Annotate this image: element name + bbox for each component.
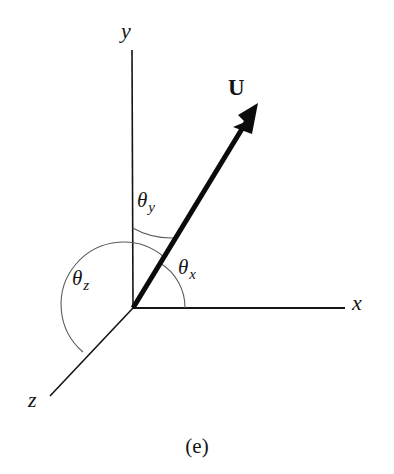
theta-x-symbol: θ bbox=[178, 255, 188, 279]
theta-y-arc bbox=[133, 228, 174, 238]
theta-z-subscript: z bbox=[83, 277, 89, 293]
vector-u-label: U bbox=[228, 76, 245, 99]
y-axis-label: y bbox=[121, 20, 131, 42]
theta-x-label: θx bbox=[178, 257, 195, 278]
theta-x-subscript: x bbox=[189, 266, 196, 282]
z-axis-label: z bbox=[28, 389, 37, 411]
theta-z-symbol: θ bbox=[72, 266, 82, 290]
theta-z-arc bbox=[61, 242, 164, 352]
vector-direction-angles-figure: y x z U θy θx θz (e) bbox=[0, 0, 394, 474]
y-axis-line bbox=[132, 50, 133, 308]
vector-u-arrowhead bbox=[233, 103, 258, 134]
figure-caption: (e) bbox=[0, 436, 394, 457]
theta-y-label: θy bbox=[137, 190, 154, 211]
x-axis-label: x bbox=[352, 292, 362, 314]
theta-y-symbol: θ bbox=[137, 188, 147, 212]
theta-z-label: θz bbox=[72, 268, 88, 289]
diagram-canvas bbox=[0, 0, 394, 474]
z-axis-line bbox=[50, 308, 133, 396]
theta-y-subscript: y bbox=[148, 199, 155, 215]
